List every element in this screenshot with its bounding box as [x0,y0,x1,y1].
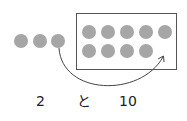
label-right-count: 10 [119,92,137,110]
ten-frame-diagram [0,0,187,121]
frame-dot [101,25,115,39]
frame-dot [139,25,153,39]
loose-dots [14,34,65,48]
frame-dot [82,44,96,58]
label-left-count: 2 [36,92,45,110]
frame-dot [120,25,134,39]
loose-dot [14,34,28,48]
frame-dot [120,44,134,58]
loose-dot [33,34,47,48]
frame-dot [82,25,96,39]
frame-dots [82,25,172,58]
frame-dot [101,44,115,58]
ten-frame-box [77,14,177,70]
frame-dot [139,44,153,58]
frame-dot [158,25,172,39]
label-conjunction: と [77,92,91,110]
loose-dot-moving [51,34,65,48]
